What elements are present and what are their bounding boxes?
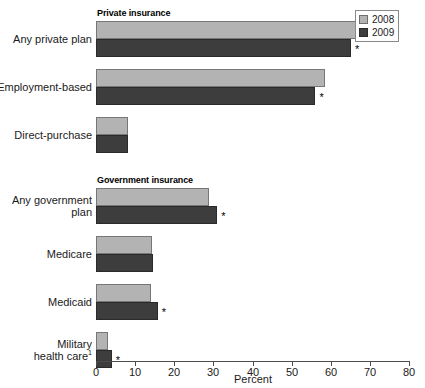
group-header-government-insurance: Government insurance bbox=[97, 175, 193, 185]
legend-swatch-2008 bbox=[359, 15, 368, 24]
category-label-direct-purchase: Direct-purchase bbox=[14, 129, 96, 142]
significance-marker: * bbox=[116, 356, 120, 364]
category-label-line: Medicaid bbox=[48, 296, 92, 309]
bar-2008 bbox=[96, 69, 325, 87]
significance-marker: * bbox=[319, 93, 323, 101]
category-label-line: Military bbox=[34, 338, 92, 351]
category-label-employment-based: Employment-based bbox=[0, 81, 96, 94]
legend-label-2008: 2008 bbox=[372, 14, 394, 25]
bar-2008 bbox=[96, 332, 108, 350]
bar-2008 bbox=[96, 117, 128, 135]
category-label-line: plan bbox=[12, 206, 92, 219]
bar-2008 bbox=[96, 236, 152, 254]
bar-2009 bbox=[96, 87, 315, 105]
category-label-line: Employment-based bbox=[0, 81, 92, 94]
bar-2008 bbox=[96, 188, 209, 206]
legend-label-2009: 2009 bbox=[372, 27, 394, 38]
significance-marker: * bbox=[355, 45, 359, 53]
category-label-medicaid: Medicaid bbox=[48, 296, 96, 309]
footnote-marker: 1 bbox=[88, 349, 92, 356]
category-label-line: Any private plan bbox=[13, 33, 92, 46]
category-label-medicare: Medicare bbox=[47, 248, 96, 261]
category-label-line: Medicare bbox=[47, 248, 92, 261]
bar-2009 bbox=[96, 39, 351, 57]
significance-marker: * bbox=[221, 212, 225, 220]
bar-2008 bbox=[96, 21, 357, 39]
insurance-coverage-bar-chart: Private insurance*Any private plan*Emplo… bbox=[0, 0, 425, 388]
bar-2009 bbox=[96, 206, 217, 224]
category-label-any-private-plan: Any private plan bbox=[13, 33, 96, 46]
legend-swatch-2009 bbox=[359, 28, 368, 37]
category-label-line: Any government bbox=[12, 194, 92, 207]
category-label-line: Direct-purchase bbox=[14, 129, 92, 142]
bar-2009 bbox=[96, 254, 153, 272]
bar-2009 bbox=[96, 135, 128, 153]
category-label-military-health-care: Militaryhealth care1 bbox=[34, 338, 96, 363]
category-label-line: health care1 bbox=[34, 350, 92, 363]
bar-2008 bbox=[96, 284, 151, 302]
legend: 2008 2009 bbox=[355, 10, 399, 42]
group-header-private-insurance: Private insurance bbox=[97, 8, 170, 18]
bar-2009 bbox=[96, 302, 158, 320]
category-label-any-government-plan: Any governmentplan bbox=[12, 194, 96, 219]
legend-item-2009: 2009 bbox=[359, 27, 394, 38]
legend-item-2008: 2008 bbox=[359, 14, 394, 25]
significance-marker: * bbox=[162, 308, 166, 316]
x-axis-title: Percent bbox=[96, 373, 410, 385]
plot-area: Private insurance*Any private plan*Emplo… bbox=[0, 0, 425, 388]
